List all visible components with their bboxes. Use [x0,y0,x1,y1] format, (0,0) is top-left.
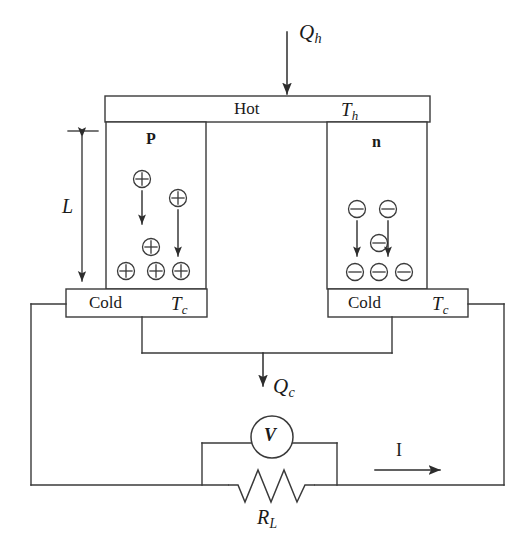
load-resistor-label: RL [257,507,277,530]
figure-canvas [0,0,532,552]
cold-side-label-right: Cold [348,294,381,311]
hot-temperature-label: Th [341,100,358,123]
p-leg-label: P [146,131,156,147]
leg-length-label: L [62,196,73,216]
heat-output-label: Qc [273,376,295,399]
heat-rejection-manifold [142,317,392,353]
current-label: I [396,441,402,459]
cold-temperature-label-left: Tc [171,294,188,317]
heat-input-label: Qh [299,22,322,45]
thermoelectric-generator-figure: Qh Hot Th P n L Cold Tc Cold Tc Qc V RL … [0,0,532,552]
cold-temperature-label-right: Tc [432,294,449,317]
load-resistor-symbol [228,470,315,502]
voltmeter-label: V [264,426,276,444]
hot-junction-bar [105,96,430,122]
n-leg-label: n [372,134,381,150]
cold-side-label-left: Cold [89,294,122,311]
hot-side-label: Hot [234,100,260,117]
